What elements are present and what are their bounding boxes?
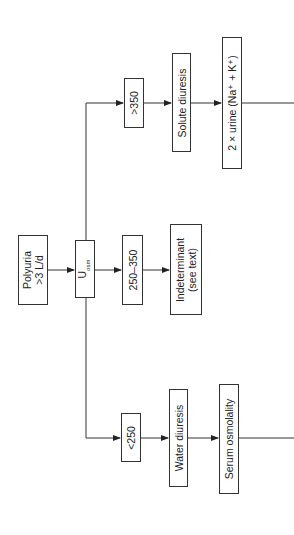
polyuria-node: Polyuria >3 L/d bbox=[18, 235, 48, 305]
solute-diuresis-label: Solute diuresis bbox=[176, 68, 188, 137]
urine-calc-node: 2 × urine (Na⁺ + K⁺) bbox=[222, 37, 242, 169]
mid-range-node: 250–350 bbox=[122, 235, 143, 305]
low-range-node: <250 bbox=[121, 413, 141, 462]
urine-calc-label: 2 × urine (Na⁺ + K⁺) bbox=[226, 55, 238, 150]
indeterminant-label: Indeterminant (see text) bbox=[174, 237, 198, 301]
serum-osmolality-node: Serum osmolality bbox=[219, 384, 239, 494]
serum-osmolality-label: Serum osmolality bbox=[223, 399, 235, 480]
uosm-main: U bbox=[76, 271, 88, 279]
water-diuresis-node: Water diuresis bbox=[169, 389, 188, 487]
water-diuresis-label: Water diuresis bbox=[173, 405, 185, 472]
low-range-label: <250 bbox=[125, 426, 137, 450]
polyuria-label: Polyuria >3 L/d bbox=[21, 251, 45, 289]
indeterminant-node: Indeterminant (see text) bbox=[170, 224, 202, 315]
polyuria-line2: >3 L/d bbox=[33, 251, 45, 289]
indeterminant-line2: (see text) bbox=[186, 237, 198, 301]
high-range-label: >350 bbox=[128, 91, 140, 115]
polyuria-line1: Polyuria bbox=[21, 251, 33, 289]
indeterminant-line1: Indeterminant bbox=[174, 237, 186, 301]
uosm-node: Uosm bbox=[75, 240, 95, 298]
high-range-node: >350 bbox=[124, 78, 144, 128]
uosm-sub: osm bbox=[85, 260, 91, 271]
solute-diuresis-node: Solute diuresis bbox=[172, 53, 191, 152]
mid-range-label: 250–350 bbox=[127, 250, 139, 291]
uosm-label: Uosm bbox=[76, 260, 93, 279]
